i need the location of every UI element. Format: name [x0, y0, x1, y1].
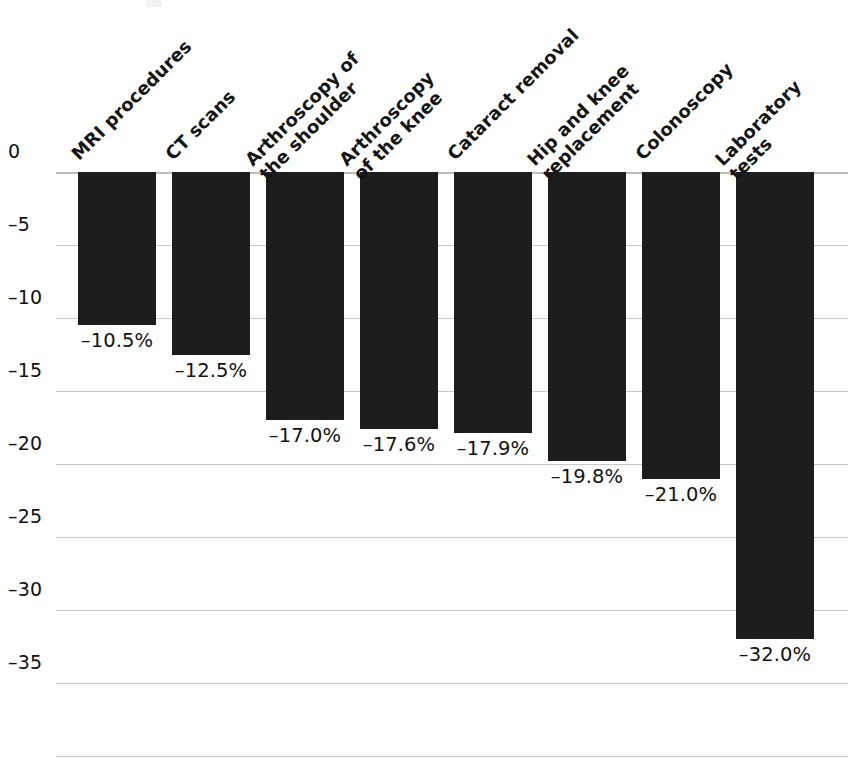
bar-chart: 0 –5 –10 –15 –20 –25 –30 –35 –10.5%–12.5… [0, 0, 860, 760]
category-labels-group: MRI proceduresCT scansArthroscopy ofthe … [0, 0, 860, 760]
category-label-line: CT scans [161, 86, 239, 164]
category-label: Laboratorytests [711, 76, 819, 184]
category-label: CT scans [162, 87, 240, 165]
